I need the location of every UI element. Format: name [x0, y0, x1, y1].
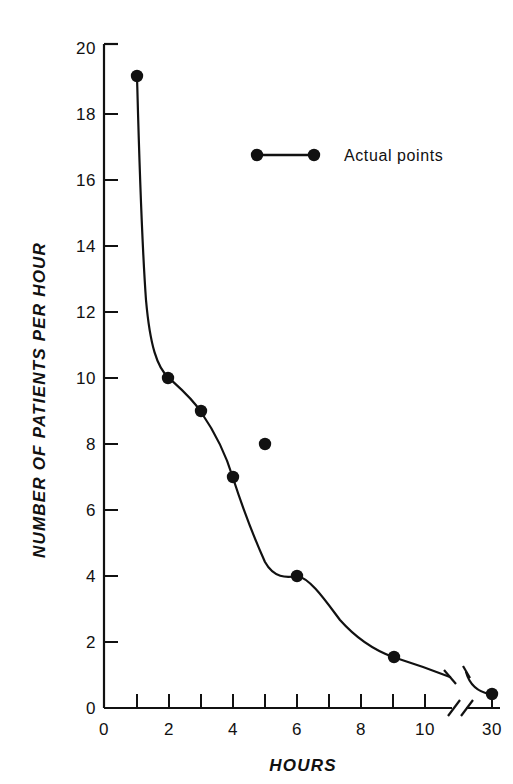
legend-marker-right-icon: [308, 149, 320, 161]
y-tick-label-6: 6: [86, 501, 96, 520]
y-tick-label-18: 18: [76, 105, 96, 124]
x-tick-labels: 0 2 4 6 8 10 30: [99, 720, 502, 739]
x-tick-label-6: 6: [292, 720, 302, 739]
y-tick-label-2: 2: [86, 633, 96, 652]
x-tick-label-30: 30: [482, 720, 502, 739]
x-axis-title: HOURS: [269, 756, 336, 775]
data-point: [131, 70, 143, 82]
legend-marker-left-icon: [251, 149, 263, 161]
y-tick-label-12: 12: [76, 303, 96, 322]
x-tick-label-2: 2: [164, 720, 174, 739]
data-point: [486, 688, 498, 700]
y-tick-label-14: 14: [76, 237, 96, 256]
y-tick-label-8: 8: [86, 435, 96, 454]
fitted-curve-group: [137, 76, 490, 694]
data-point: [259, 438, 271, 450]
chart-canvas: 0 2 4 6 8 10 12 14 16 18 20: [0, 0, 513, 784]
fitted-curve-main: [137, 76, 450, 677]
data-point: [162, 372, 174, 384]
data-point: [227, 471, 239, 483]
x-tick-label-4: 4: [228, 720, 238, 739]
x-tick-label-0: 0: [99, 720, 109, 739]
legend: Actual points: [251, 147, 444, 164]
y-ticks: [104, 114, 118, 708]
x-ticks: [137, 694, 492, 708]
curve-break-left: [444, 670, 456, 684]
x-tick-label-10: 10: [415, 720, 435, 739]
y-tick-label-4: 4: [86, 567, 96, 586]
data-point: [388, 651, 400, 663]
data-point: [291, 570, 303, 582]
data-points-group: [131, 70, 498, 700]
legend-label: Actual points: [344, 147, 443, 164]
chart-figure: 0 2 4 6 8 10 12 14 16 18 20: [0, 0, 513, 784]
y-tick-label-20: 20: [76, 39, 96, 58]
y-tick-label-16: 16: [76, 171, 96, 190]
x-tick-label-8: 8: [356, 720, 366, 739]
y-tick-label-0: 0: [86, 699, 96, 718]
y-tick-label-10: 10: [76, 369, 96, 388]
y-tick-labels: 0 2 4 6 8 10 12 14 16 18 20: [76, 39, 96, 718]
y-axis-title: NUMBER OF PATIENTS PER HOUR: [30, 242, 49, 558]
data-point: [195, 405, 207, 417]
